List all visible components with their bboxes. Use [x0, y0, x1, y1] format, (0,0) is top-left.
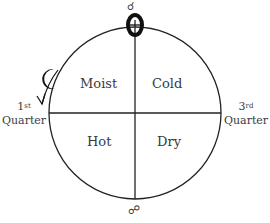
quadrant-cold: Cold [152, 76, 182, 91]
quadrant-hot: Hot [87, 134, 111, 149]
opposition-glyph: ☍ [128, 203, 140, 217]
third-quarter-label: 3rd Quarter [224, 100, 268, 128]
quadrant-dry: Dry [157, 134, 181, 149]
quadrant-moist: Moist [80, 76, 117, 91]
first-quarter-label: 1st Quarter [2, 100, 46, 128]
conjunction-glyph: ☌ [127, 0, 134, 13]
arrow-icon [37, 70, 58, 104]
